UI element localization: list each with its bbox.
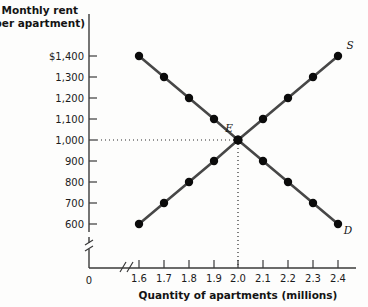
- equilibrium-label: E: [224, 122, 233, 134]
- origin-label: 0: [86, 275, 92, 286]
- x-tick-label-1-6: 1.6: [131, 273, 147, 284]
- x-tick-label-2-1: 2.1: [255, 273, 271, 284]
- x-tick-label-1-7: 1.7: [156, 273, 172, 284]
- y-tick-label-1300: 1,300: [55, 72, 84, 83]
- equilibrium-point-marker: [233, 135, 242, 144]
- y-tick-label-700: 700: [65, 198, 84, 209]
- x-axis-title: Quantity of apartments (millions): [139, 289, 338, 301]
- x-tick-label-2-3: 2.3: [305, 273, 321, 284]
- y-axis-title-line1: Monthly rent: [1, 4, 78, 16]
- chart-canvas: Monthly rent (per apartment) $1,400 1,30…: [0, 0, 368, 307]
- demand-curve-label: D: [343, 224, 353, 236]
- x-tick-label-1-9: 1.9: [206, 273, 222, 284]
- y-tick-marks: [89, 56, 97, 224]
- x-tick-label-1-8: 1.8: [181, 273, 197, 284]
- y-tick-label-1000: 1,000: [55, 135, 84, 146]
- supply-curve-label: S: [346, 39, 353, 51]
- x-tick-label-2-2: 2.2: [280, 273, 296, 284]
- y-tick-label-1200: 1,200: [55, 93, 84, 104]
- x-tick-label-2-0: 2.0: [230, 273, 246, 284]
- y-tick-label-1100: 1,100: [55, 114, 84, 125]
- y-tick-label-600: 600: [65, 219, 84, 230]
- y-tick-label-900: 900: [65, 156, 84, 167]
- x-axis-break-icon: [120, 262, 133, 272]
- y-axis-title-line2: (per apartment): [0, 17, 85, 29]
- y-tick-label-800: 800: [65, 177, 84, 188]
- y-tick-label-1400: $1,400: [49, 51, 84, 62]
- supply-demand-chart: Monthly rent (per apartment) $1,400 1,30…: [0, 0, 368, 307]
- x-tick-label-2-4: 2.4: [330, 273, 346, 284]
